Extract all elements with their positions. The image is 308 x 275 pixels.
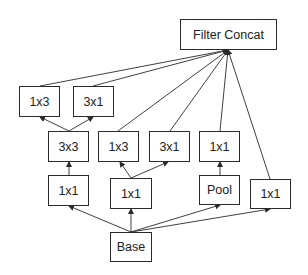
node-label: 3x3 [58,140,78,154]
node-label: 1x1 [121,187,141,201]
edge-arrow [118,50,228,131]
edge-arrow [131,162,168,178]
node-base: Base [110,232,152,262]
edge-arrow [220,50,228,131]
node-label: Base [117,240,146,254]
edge-arrow [40,117,69,131]
edge-arrow [69,206,131,232]
edge-arrow [69,117,93,131]
node-label: Filter Concat [193,28,264,42]
node-b1-3x1: 3x1 [73,86,114,117]
node-label: 1x1 [209,140,229,154]
node-label: 3x1 [83,95,103,109]
node-b2-1x3: 1x3 [98,131,139,162]
edge-arrow [120,162,131,178]
node-concat: Filter Concat [180,19,277,50]
node-b3-1x1: 1x1 [199,131,240,162]
node-label: 1x3 [108,140,128,154]
edge-arrow [131,205,220,232]
node-b3-pool: Pool [199,175,240,205]
node-b1-3x3: 3x3 [48,131,89,162]
edge-arrow [131,209,270,232]
inception-module-diagram: Filter Concat1x33x13x31x11x33x11x11x1Poo… [0,0,308,275]
node-label: 1x3 [29,95,49,109]
node-b2-1x1: 1x1 [110,178,152,209]
node-b4-1x1: 1x1 [250,179,291,209]
node-b1-1x3: 1x3 [19,86,60,117]
edge-arrow [170,50,228,131]
node-b2-3x1: 3x1 [149,131,190,162]
edge-arrow [93,50,228,86]
node-label: 1x1 [58,184,78,198]
node-label: Pool [207,183,232,197]
node-label: 3x1 [159,140,179,154]
node-b1-1x1: 1x1 [48,175,89,206]
node-label: 1x1 [260,187,280,201]
edge-arrow [40,50,228,86]
